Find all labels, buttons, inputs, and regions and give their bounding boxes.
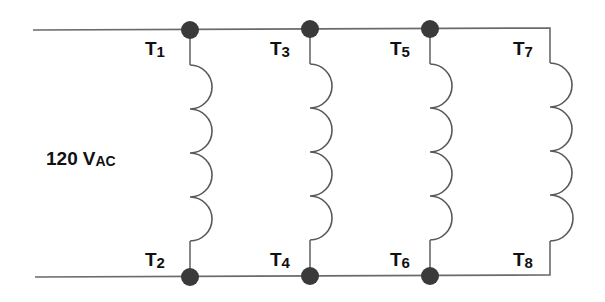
junction-node-t4 [301,267,319,285]
terminal-label-t7: T7 [513,38,533,60]
bottom-bus-wire [35,241,550,277]
coil-4 [550,63,573,241]
junction-node-t1 [181,21,199,39]
terminal-label-t1: T1 [145,38,165,60]
terminal-label-t3: T3 [270,38,290,60]
terminal-label-t8: T8 [513,249,533,271]
junction-node-t2 [181,268,199,286]
terminal-label-t4: T4 [270,249,291,271]
junction-node-t5 [421,20,439,38]
junction-node-t6 [421,267,439,285]
coil-2 [310,29,332,276]
circuit-diagram: T1 T2 T3 T4 T5 T6 T7 T8 120VAC [0,0,605,302]
source-voltage-label: 120VAC [46,148,116,169]
coil-1 [190,30,212,277]
top-bus-wire [33,28,550,63]
terminal-label-t6: T6 [390,249,410,271]
junction-node-t3 [301,20,319,38]
coil-3 [430,29,452,276]
terminal-label-t2: T2 [145,249,165,271]
terminal-label-t5: T5 [390,38,410,60]
